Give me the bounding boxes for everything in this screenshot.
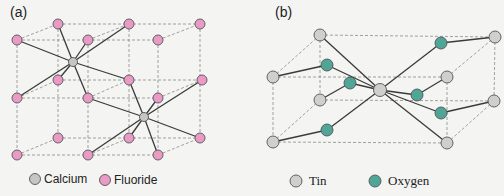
fluoride-legend-swatch (100, 175, 111, 186)
panel-a: (a) (10, 4, 207, 187)
tin-legend-swatch (290, 175, 302, 187)
calcium-atoms (69, 58, 149, 122)
bonds-a (17, 24, 202, 155)
legend-a: Calcium Fluoride (30, 172, 158, 187)
tin-atoms (267, 29, 501, 149)
tin-legend-label: Tin (309, 173, 327, 188)
fluoride-legend-label: Fluoride (114, 173, 158, 187)
oxygen-legend-label: Oxygen (388, 173, 430, 188)
panel-a-label: (a) (10, 4, 27, 20)
legend-b: Tin Oxygen (290, 173, 430, 188)
calcium-legend-swatch (30, 174, 41, 185)
crystal-structure-diagram: (a) (0, 0, 504, 196)
panel-b-label: (b) (275, 4, 292, 20)
panel-b: (b) (267, 4, 501, 188)
unit-cell-edges-a (17, 24, 202, 155)
calcium-legend-label: Calcium (44, 172, 87, 186)
oxygen-legend-swatch (369, 175, 381, 187)
